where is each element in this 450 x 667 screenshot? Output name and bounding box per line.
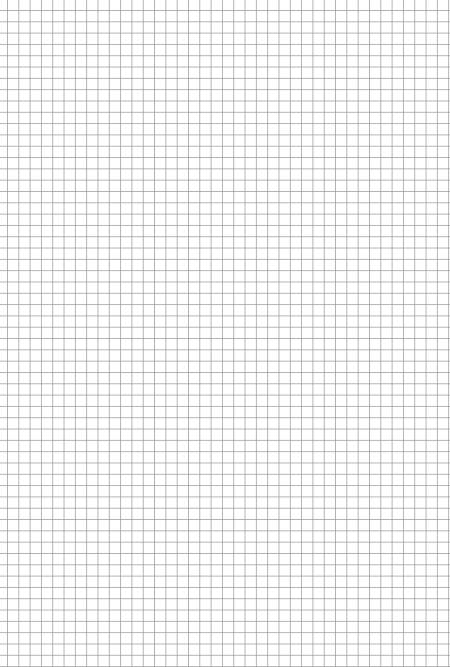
graph-paper-sheet bbox=[0, 0, 450, 667]
